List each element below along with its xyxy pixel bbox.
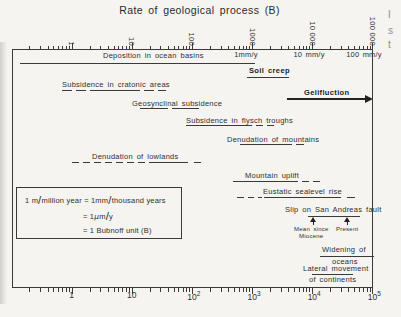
bottom-axis-tick bbox=[270, 288, 271, 292]
top-axis-tick bbox=[183, 46, 184, 50]
bottom-axis-tick bbox=[294, 288, 295, 292]
bottom-axis-tick bbox=[48, 288, 49, 292]
arrow-up-marker-stem bbox=[313, 222, 314, 225]
process-label: of continents bbox=[309, 275, 356, 284]
arrow-head bbox=[365, 95, 373, 103]
range-line bbox=[20, 63, 255, 64]
process-label: Mountain uplift bbox=[245, 171, 299, 180]
range-line bbox=[149, 162, 188, 163]
bottom-axis-tick bbox=[58, 288, 59, 292]
bottom-axis-tick bbox=[160, 288, 161, 292]
process-label: Denudation of lowlands bbox=[92, 152, 178, 161]
bottom-axis-tick bbox=[100, 288, 101, 292]
bottom-axis-tick bbox=[234, 288, 235, 292]
bottom-axis-tick-label: 1 bbox=[69, 290, 74, 300]
process-label: Slip on San Andreas fault bbox=[285, 205, 381, 214]
rate-unit-label: 10 mm/y bbox=[293, 50, 324, 59]
top-axis-tick bbox=[122, 46, 123, 50]
bottom-axis-tick bbox=[221, 288, 222, 292]
top-axis-tick bbox=[306, 46, 307, 50]
top-axis-tick bbox=[228, 46, 229, 50]
bottom-axis-tick bbox=[363, 288, 364, 292]
bottom-axis-tick bbox=[330, 288, 331, 292]
bottom-axis-tick bbox=[354, 288, 355, 292]
bottom-axis-tick bbox=[108, 288, 109, 292]
range-line bbox=[258, 197, 262, 198]
top-axis-tick-label: 10 000 bbox=[308, 21, 317, 46]
bottom-axis-tick bbox=[281, 288, 282, 292]
top-axis-tick-label: 1 bbox=[67, 42, 76, 46]
range-line bbox=[172, 108, 199, 109]
range-line bbox=[62, 90, 72, 91]
top-axis-tick bbox=[363, 46, 364, 50]
top-axis-tick bbox=[186, 46, 187, 50]
process-label: Widening of bbox=[322, 245, 366, 254]
range-line bbox=[140, 108, 168, 109]
top-axis-tick-label: 1000 bbox=[248, 28, 257, 46]
range-line bbox=[267, 125, 274, 126]
top-axis-tick bbox=[341, 46, 342, 50]
top-axis-tick bbox=[48, 46, 49, 50]
bottom-axis-tick-label: 102 bbox=[187, 290, 200, 302]
process-label: Miocene bbox=[299, 233, 323, 239]
range-line bbox=[233, 181, 298, 182]
top-axis-tick bbox=[168, 46, 169, 50]
top-axis-tick bbox=[40, 46, 41, 50]
edge-text-fragment: s bbox=[388, 25, 393, 36]
bottom-axis-tick bbox=[122, 288, 123, 292]
top-axis-tick bbox=[299, 46, 300, 50]
range-line bbox=[194, 162, 201, 163]
process-label: Eustatic sealevel rise bbox=[263, 187, 342, 196]
top-axis-tick bbox=[249, 46, 250, 50]
bottom-axis-tick bbox=[29, 288, 30, 292]
top-axis-tick bbox=[69, 46, 70, 50]
bottom-axis-tick-label: 103 bbox=[247, 290, 260, 302]
range-line bbox=[158, 90, 166, 91]
bottom-axis-tick bbox=[40, 288, 41, 292]
top-axis-tick bbox=[90, 46, 91, 50]
bottom-axis-tick bbox=[174, 288, 175, 292]
top-axis-tick bbox=[309, 46, 310, 50]
bottom-axis-tick bbox=[66, 288, 67, 292]
edge-text-fragment: t bbox=[388, 39, 391, 50]
top-axis-tick bbox=[29, 46, 30, 50]
top-axis-tick-label: 10 bbox=[127, 37, 136, 46]
legend-line-3: = 1 Bubnoff unit (B) bbox=[17, 224, 181, 238]
edge-text-fragment: I bbox=[388, 9, 391, 20]
top-axis-tick bbox=[288, 46, 289, 50]
top-axis-tick bbox=[348, 46, 349, 50]
arrow-up-marker-stem bbox=[347, 222, 348, 225]
range-line bbox=[138, 162, 145, 163]
range-line bbox=[94, 162, 101, 163]
range-line bbox=[347, 197, 355, 198]
range-line bbox=[296, 144, 304, 145]
top-axis-tick bbox=[359, 46, 360, 50]
bottom-axis-tick-label: 104 bbox=[308, 290, 321, 302]
top-axis-tick bbox=[174, 46, 175, 50]
top-axis-tick-label: 100 bbox=[187, 33, 196, 46]
top-axis-tick bbox=[53, 46, 54, 50]
range-line bbox=[264, 197, 341, 198]
range-line bbox=[240, 144, 292, 145]
top-axis-tick bbox=[281, 46, 282, 50]
top-axis-tick bbox=[114, 46, 115, 50]
legend-line-2: = 1μm/y bbox=[17, 208, 181, 224]
process-label: Soil creep bbox=[249, 66, 290, 75]
top-axis-tick bbox=[234, 46, 235, 50]
range-line bbox=[247, 77, 289, 79]
process-label: Mean since bbox=[294, 226, 329, 232]
bottom-axis-tick bbox=[348, 288, 349, 292]
top-axis-tick bbox=[303, 46, 304, 50]
bottom-axis-tick bbox=[178, 288, 179, 292]
bottom-axis-tick bbox=[150, 288, 151, 292]
process-label: Lateral movement bbox=[303, 264, 369, 273]
bottom-axis-tick bbox=[243, 288, 244, 292]
bottom-axis-tick bbox=[62, 288, 63, 292]
range-line bbox=[76, 90, 86, 91]
process-label: Subsidence in cratonic areas bbox=[62, 80, 170, 89]
process-label: Gelifluction bbox=[304, 88, 349, 97]
range-line bbox=[320, 256, 374, 257]
top-axis-tick bbox=[370, 46, 371, 50]
left-edge-shadow bbox=[0, 42, 7, 304]
process-label: Subsidence in flysch troughs bbox=[186, 116, 293, 125]
